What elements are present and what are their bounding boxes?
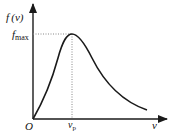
fmax-label: fmax	[12, 28, 29, 42]
fmax-sub: max	[15, 33, 29, 42]
vp-label: vp	[68, 119, 76, 132]
origin-label: O	[25, 120, 33, 132]
distribution-curve	[33, 34, 147, 119]
distribution-diagram: f (v) fmax O vp v	[0, 0, 171, 140]
x-axis-label: v	[152, 119, 157, 131]
vp-sub: p	[72, 124, 76, 132]
y-axis-label: f (v)	[6, 11, 24, 24]
